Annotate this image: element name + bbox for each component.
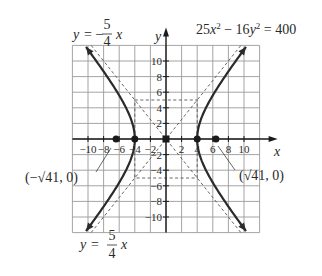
- point--41-0-: [212, 136, 219, 143]
- x-tick-label: 10: [239, 143, 251, 155]
- focus-right-label: (√41, 0): [239, 168, 284, 184]
- x-tick-label: −4: [129, 143, 141, 155]
- point-vertex-right: [194, 136, 201, 143]
- asym-top-den: 4: [104, 34, 111, 49]
- hyperbola-figure: −10−8−6−4−2246810−10−8−6−4−2246810 y x 2…: [0, 0, 322, 276]
- x-tick-label: 8: [226, 143, 232, 155]
- x-tick-label: 2: [179, 143, 185, 155]
- x-axis-label: x: [273, 144, 281, 159]
- point-vertex-left: [131, 136, 138, 143]
- y-tick-label: 10: [151, 55, 163, 67]
- y-tick-label: −6: [150, 180, 162, 192]
- asym-bot-y: y: [78, 237, 87, 252]
- x-axis-arrow: [269, 136, 278, 142]
- x-tick-label: 6: [210, 143, 216, 155]
- y-axis-label: y: [153, 29, 162, 44]
- asym-bot-eq: =: [91, 237, 99, 252]
- x-tick-label: −6: [113, 143, 125, 155]
- y-axis-arrow: [163, 27, 169, 36]
- asym-top-y: y: [71, 27, 80, 42]
- y-tick-label: 8: [157, 71, 163, 83]
- x-tick-label: 4: [194, 143, 200, 155]
- asym-top-eq: = −: [84, 27, 103, 42]
- focus-left-label: (−√41, 0): [25, 170, 78, 186]
- y-tick-label: 4: [157, 102, 163, 114]
- y-tick-label: −4: [150, 164, 162, 176]
- y-tick-label: 2: [157, 117, 163, 129]
- plot-canvas: −10−8−6−4−2246810−10−8−6−4−2246810 y x 2…: [0, 0, 322, 276]
- asym-bot-den: 4: [109, 246, 116, 261]
- y-tick-label: −10: [145, 211, 163, 223]
- asym-top-num: 5: [104, 17, 111, 32]
- point--41-0-: [113, 136, 120, 143]
- asym-bot-x: x: [120, 237, 128, 252]
- equation-label: 25x2 − 16y2 = 400: [196, 21, 296, 37]
- asymptote-label-negative: y = − 5 4 x: [71, 17, 123, 49]
- asym-top-x: x: [115, 27, 123, 42]
- y-tick-label: 6: [157, 86, 163, 98]
- y-tick-label: −2: [150, 149, 162, 161]
- y-tick-label: −8: [150, 195, 162, 207]
- x-tick-label: −10: [79, 143, 97, 155]
- asym-bot-num: 5: [109, 228, 116, 243]
- center-point: [163, 136, 170, 143]
